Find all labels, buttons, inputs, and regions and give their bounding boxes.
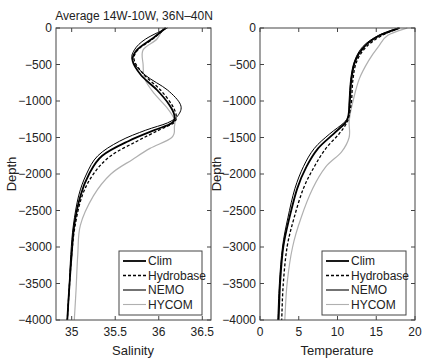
y-tick-label: 0 [45,21,52,35]
y-tick-label: −3000 [222,240,256,254]
y-tick-label: −1500 [18,131,52,145]
legend-label-clim: Clim [351,254,375,268]
figure: Average 14W-10W, 36N–40N 0−500−1000−1500… [0,0,437,364]
legend-label-hycom: HYCOM [351,298,396,312]
temperature-legend: ClimHydrobaseNEMOHYCOM [322,251,409,315]
x-tick-label: 10 [331,325,345,339]
y-tick-label: −3000 [18,240,52,254]
x-tick-label: 35.5 [104,325,128,339]
x-tick-label: 35 [65,325,79,339]
y-tick-label: −4000 [222,313,256,327]
legend-label-nemo: NEMO [148,283,184,297]
x-tick-label: 36.5 [191,325,215,339]
y-tick-label: −3500 [222,277,256,291]
y-tick-label: −2500 [222,204,256,218]
y-tick-label: −500 [25,58,52,72]
y-tick-label: −1500 [222,131,256,145]
salinity-legend: ClimHydrobaseNEMOHYCOM [119,251,206,315]
x-axis-label-salinity: Salinity [112,343,154,358]
y-axis-label-depth-right: Depth [209,157,224,192]
legend-label-clim: Clim [148,254,172,268]
y-tick-label: −1000 [18,94,52,108]
x-tick-label: 20 [408,325,422,339]
temperature-panel: 0−500−1000−1500−2000−2500−3000−3500−4000… [209,21,422,358]
x-tick-label: 0 [257,325,264,339]
y-tick-label: 0 [249,21,256,35]
y-tick-label: −500 [229,58,256,72]
x-axis-label-temperature: Temperature [301,343,374,358]
chart-title: Average 14W-10W, 36N–40N [55,9,213,23]
legend-label-hycom: HYCOM [148,298,193,312]
y-tick-label: −2000 [222,167,256,181]
legend-label-hydrobase: Hydrobase [351,269,409,283]
x-tick-label: 5 [295,325,302,339]
y-tick-label: −4000 [18,313,52,327]
y-tick-label: −3500 [18,277,52,291]
y-tick-label: −2500 [18,204,52,218]
y-tick-label: −1000 [222,94,256,108]
salinity-panel: Average 14W-10W, 36N–40N 0−500−1000−1500… [4,9,214,358]
legend-label-nemo: NEMO [351,283,387,297]
x-tick-label: 36 [152,325,166,339]
y-axis-label-depth-left: Depth [4,157,19,192]
legend-label-hydrobase: Hydrobase [148,269,206,283]
x-tick-label: 15 [370,325,384,339]
y-tick-label: −2000 [18,167,52,181]
